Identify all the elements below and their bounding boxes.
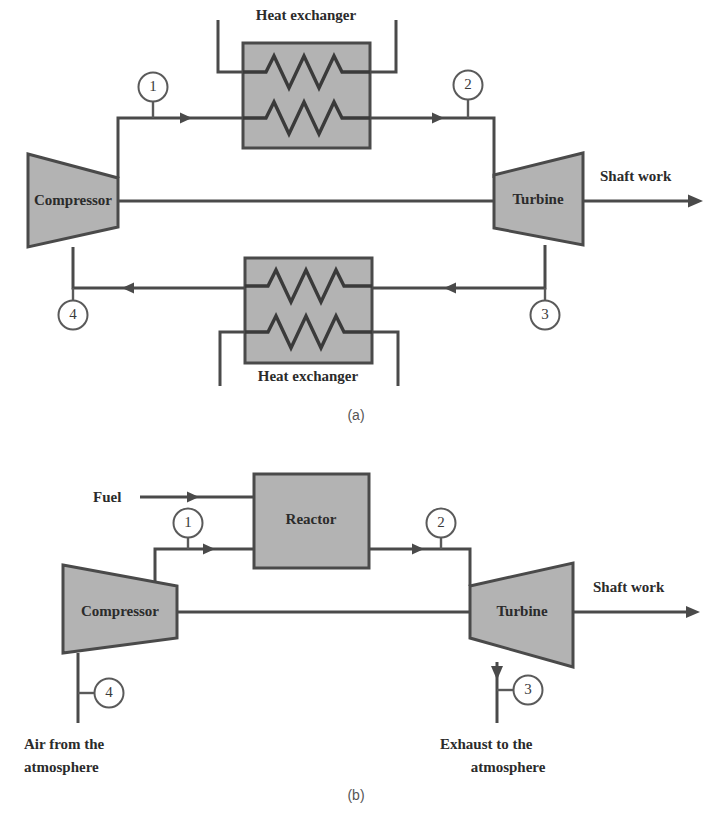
heat-exchanger-top-label: Heat exchanger (256, 7, 357, 23)
figure-canvas: Heat exchanger 1 2 Compressor Turbine (0, 0, 713, 826)
turbine-b-label: Turbine (496, 603, 547, 619)
pipe-compressor-to-reactor (155, 549, 254, 586)
fuel-label: Fuel (93, 489, 121, 505)
arrow-hx-top-to-turbine (432, 113, 444, 124)
arrow-compressor-to-reactor (203, 544, 215, 555)
arrow-shaft-work-a (688, 195, 703, 208)
caption-panel-a: (a) (347, 407, 364, 423)
turbine-a-label: Turbine (512, 191, 563, 207)
node-3-label: 3 (541, 306, 549, 322)
caption-panel-b: (b) (347, 787, 364, 803)
air-inlet-label-line1: Air from the (24, 736, 105, 752)
compressor-b-label: Compressor (81, 603, 159, 619)
exhaust-label-line2: atmosphere (471, 759, 546, 775)
arrow-compressor-to-hx-top (180, 113, 192, 124)
schematic-diagram: Heat exchanger 1 2 Compressor Turbine (0, 0, 713, 826)
arrow-turbine-to-hx-bottom (444, 283, 456, 294)
node-b1-label: 1 (184, 514, 192, 530)
pipe-turbine-to-hx-bottom (372, 245, 545, 288)
panel-b: Fuel Reactor 1 2 Compressor (24, 474, 700, 803)
hx-top-right-service-pipe (370, 20, 396, 72)
heat-exchanger-bottom-label: Heat exchanger (258, 368, 359, 384)
shaft-work-a-label: Shaft work (600, 168, 672, 184)
pipe-hx-top-to-turbine (370, 118, 494, 178)
exhaust-label-line1: Exhaust to the (440, 736, 533, 752)
arrow-hx-bottom-to-compressor (122, 283, 134, 294)
node-b2-label: 2 (437, 514, 445, 530)
node-1-label: 1 (149, 78, 157, 94)
pipe-reactor-to-turbine (369, 549, 470, 586)
node-2-label: 2 (464, 76, 472, 92)
pipe-compressor-to-hx-top (118, 118, 243, 178)
pipe-hx-bottom-to-compressor (73, 247, 245, 288)
arrow-shaft-work-b (686, 606, 700, 618)
shaft-work-b-label: Shaft work (593, 579, 665, 595)
panel-a: Heat exchanger 1 2 Compressor Turbine (28, 7, 703, 423)
arrow-reactor-to-turbine (412, 544, 424, 555)
reactor-label: Reactor (286, 511, 337, 527)
hx-bottom-right-service-pipe (372, 332, 398, 386)
node-b4-label: 4 (105, 684, 113, 700)
hx-top-left-service-pipe (218, 20, 243, 72)
node-b3-label: 3 (524, 681, 532, 697)
arrow-exhaust-down (491, 666, 503, 680)
air-inlet-label-line2: atmosphere (24, 759, 99, 775)
arrow-fuel-inlet (187, 492, 199, 503)
compressor-a-label: Compressor (34, 192, 112, 208)
node-4-label: 4 (69, 306, 77, 322)
hx-bottom-left-service-pipe (220, 332, 245, 386)
